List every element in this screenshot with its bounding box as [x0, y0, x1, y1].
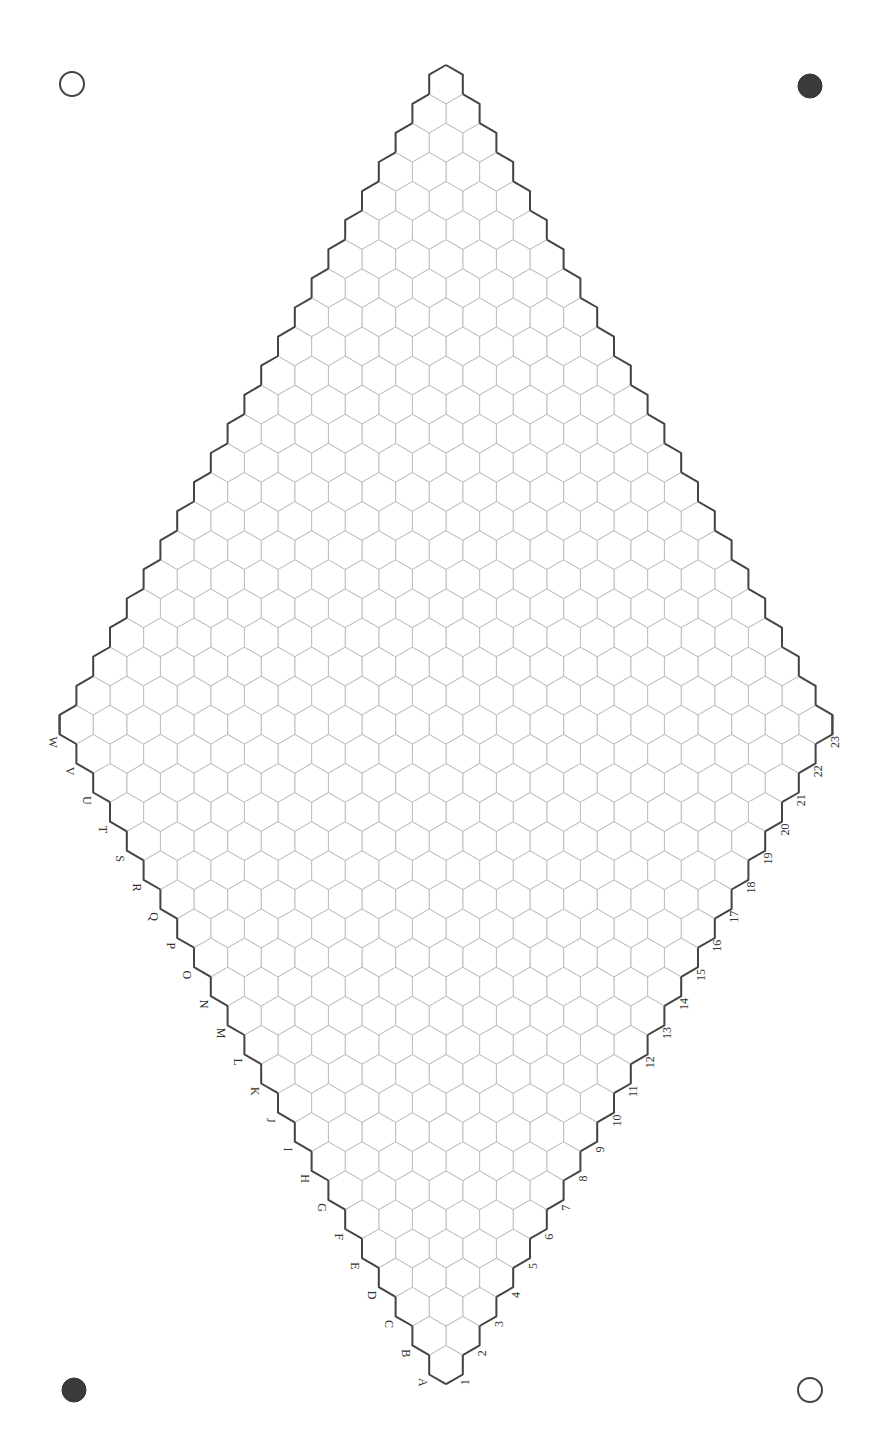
column-label: 13: [660, 1027, 674, 1039]
row-label: Q: [147, 912, 161, 921]
column-label: 5: [526, 1263, 540, 1269]
column-label: 7: [559, 1205, 573, 1211]
row-label: N: [197, 1000, 211, 1009]
column-label: 1: [458, 1379, 472, 1385]
row-label: D: [365, 1291, 379, 1300]
row-label: V: [63, 767, 77, 776]
row-label: T: [96, 826, 110, 834]
column-label: 10: [610, 1114, 624, 1126]
row-label: M: [214, 1028, 228, 1039]
column-label: 20: [778, 823, 792, 835]
top-right-filled-circle-icon: [798, 74, 822, 98]
column-label: 4: [509, 1292, 523, 1298]
column-label: 15: [694, 969, 708, 981]
column-label: 16: [710, 940, 724, 952]
row-label: R: [130, 884, 144, 892]
row-label: L: [231, 1059, 245, 1066]
column-label: 21: [794, 794, 808, 806]
column-label: 14: [677, 998, 691, 1010]
row-label: W: [46, 736, 60, 748]
row-label: F: [332, 1233, 346, 1240]
hex-cells[interactable]: [60, 65, 833, 1384]
hex-board[interactable]: A1B2C3D4E5F6G7H8I9J10K11L12M13N14O15P16Q…: [0, 0, 873, 1451]
row-label: J: [264, 1118, 278, 1123]
column-label: 19: [761, 853, 775, 865]
column-label: 2: [475, 1350, 489, 1356]
column-label: 18: [744, 882, 758, 894]
row-label: K: [248, 1087, 262, 1096]
column-label: 12: [643, 1056, 657, 1068]
row-label: H: [298, 1174, 312, 1183]
top-left-open-circle-icon: [60, 72, 84, 96]
row-label: C: [382, 1320, 396, 1328]
column-label: 22: [811, 765, 825, 777]
row-label: B: [399, 1349, 413, 1357]
column-label: 3: [492, 1321, 506, 1327]
column-label: 17: [727, 911, 741, 923]
bottom-right-open-circle-icon: [798, 1378, 822, 1402]
row-label: S: [113, 855, 127, 862]
column-label: 6: [542, 1234, 556, 1240]
column-label: 8: [576, 1176, 590, 1182]
column-label: 23: [828, 736, 842, 748]
row-label: U: [80, 796, 94, 805]
row-label: O: [180, 971, 194, 980]
row-label: E: [348, 1262, 362, 1269]
row-label: G: [315, 1203, 329, 1212]
bottom-left-filled-circle-icon: [62, 1378, 86, 1402]
row-label: A: [416, 1378, 430, 1387]
column-label: 11: [626, 1086, 640, 1098]
row-label: P: [164, 942, 178, 949]
row-label: I: [281, 1148, 295, 1152]
column-label: 9: [593, 1147, 607, 1153]
